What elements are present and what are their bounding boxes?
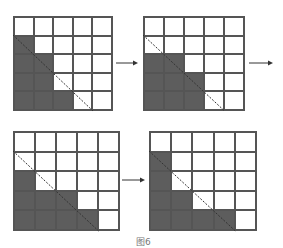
empty-cell [73, 91, 93, 110]
empty-cell [150, 132, 171, 152]
filled-cell [171, 210, 192, 230]
empty-cell [98, 191, 119, 211]
filled-cell [35, 191, 56, 211]
empty-cell [164, 36, 184, 55]
empty-cell [77, 191, 98, 211]
empty-cell [171, 132, 192, 152]
empty-cell [53, 54, 73, 73]
empty-cell [171, 171, 192, 191]
filled-cell [14, 91, 34, 110]
filled-cell [14, 54, 34, 73]
empty-cell [224, 17, 244, 36]
empty-cell [214, 132, 235, 152]
empty-cell [171, 152, 192, 172]
filled-cell [34, 91, 54, 110]
empty-cell [34, 17, 54, 36]
empty-cell [77, 152, 98, 172]
empty-cell [204, 91, 224, 110]
filled-cell [164, 54, 184, 73]
empty-cell [184, 17, 204, 36]
filled-cell [144, 91, 164, 110]
filled-cell [150, 152, 171, 172]
empty-cell [204, 36, 224, 55]
filled-cell [171, 191, 192, 211]
empty-cell [92, 54, 112, 73]
filled-cell [53, 91, 73, 110]
empty-cell [98, 152, 119, 172]
grid-step-1 [13, 16, 113, 111]
filled-cell [144, 73, 164, 92]
filled-cell [14, 171, 35, 191]
filled-cell [14, 36, 34, 55]
empty-cell [53, 17, 73, 36]
empty-cell [164, 17, 184, 36]
filled-cell [150, 191, 171, 211]
filled-cell [164, 73, 184, 92]
empty-cell [204, 17, 224, 36]
empty-cell [73, 36, 93, 55]
empty-cell [144, 17, 164, 36]
empty-cell [92, 73, 112, 92]
filled-cell [214, 210, 235, 230]
empty-cell [14, 132, 35, 152]
empty-cell [214, 171, 235, 191]
filled-cell [14, 73, 34, 92]
filled-cell [56, 210, 77, 230]
empty-cell [98, 132, 119, 152]
empty-cell [192, 171, 213, 191]
empty-cell [98, 171, 119, 191]
empty-cell [53, 36, 73, 55]
empty-cell [224, 91, 244, 110]
empty-cell [92, 36, 112, 55]
empty-cell [235, 152, 256, 172]
arrowhead-icon [140, 178, 145, 183]
empty-cell [235, 171, 256, 191]
empty-cell [73, 17, 93, 36]
empty-cell [56, 152, 77, 172]
filled-cell [34, 73, 54, 92]
empty-cell [224, 73, 244, 92]
filled-cell [184, 91, 204, 110]
empty-cell [56, 171, 77, 191]
empty-cell [192, 191, 213, 211]
empty-cell [214, 191, 235, 211]
empty-cell [184, 36, 204, 55]
empty-cell [35, 152, 56, 172]
empty-cell [77, 171, 98, 191]
empty-cell [204, 54, 224, 73]
filled-cell [35, 210, 56, 230]
empty-cell [92, 91, 112, 110]
empty-cell [14, 152, 35, 172]
figure-caption: 图6 [136, 235, 151, 248]
filled-cell [150, 171, 171, 191]
arrowhead-icon [133, 61, 138, 66]
grid-step-4 [149, 131, 257, 231]
filled-cell [164, 91, 184, 110]
filled-cell [144, 54, 164, 73]
empty-cell [92, 17, 112, 36]
filled-cell [56, 191, 77, 211]
empty-cell [77, 132, 98, 152]
filled-cell [192, 210, 213, 230]
empty-cell [184, 54, 204, 73]
empty-cell [235, 210, 256, 230]
filled-cell [77, 210, 98, 230]
empty-cell [192, 152, 213, 172]
empty-cell [235, 191, 256, 211]
empty-cell [35, 171, 56, 191]
empty-cell [73, 73, 93, 92]
grid-step-2 [143, 16, 245, 111]
filled-cell [14, 191, 35, 211]
empty-cell [224, 54, 244, 73]
empty-cell [235, 132, 256, 152]
filled-cell [184, 73, 204, 92]
empty-cell [144, 36, 164, 55]
filled-cell [150, 210, 171, 230]
empty-cell [34, 36, 54, 55]
arrowhead-icon [268, 61, 273, 66]
empty-cell [56, 132, 77, 152]
empty-cell [224, 36, 244, 55]
empty-cell [73, 54, 93, 73]
empty-cell [98, 210, 119, 230]
filled-cell [34, 54, 54, 73]
